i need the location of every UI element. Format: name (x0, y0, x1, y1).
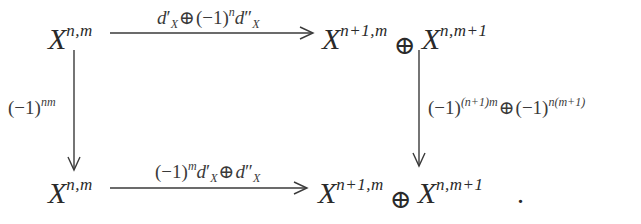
node-superscript: n,m (66, 21, 93, 40)
label-exponent: m (188, 159, 197, 173)
label-sign: (−1) (155, 161, 188, 182)
label-d: d (157, 7, 167, 28)
direct-sum-icon: ⊕ (179, 7, 195, 28)
label-d: d (235, 161, 245, 182)
label-exponent: nm (41, 95, 56, 109)
label-prime: ″ (245, 161, 253, 182)
direct-sum-icon: ⊕ (394, 31, 416, 60)
node-superscript: n,m (66, 175, 93, 194)
node-base: X (318, 176, 336, 209)
node-superscript: n+1,m (336, 175, 384, 194)
label-sign: (−1) (516, 97, 549, 118)
node-base: X (48, 176, 66, 209)
direct-sum-icon: ⊕ (219, 161, 235, 182)
label-subscript: X (210, 171, 217, 185)
label-subscript: X (252, 17, 259, 31)
label-sign: (−1) (196, 7, 229, 28)
trailing-period: . (517, 180, 524, 208)
label-subscript: X (171, 17, 178, 31)
node-top-right: Xn+1,m⊕Xn,m+1 (322, 22, 487, 54)
direct-sum-icon: ⊕ (499, 97, 515, 118)
label-sign: (−1) (8, 97, 41, 118)
node-superscript: n,m+1 (440, 21, 488, 40)
node-base: X (422, 22, 440, 55)
node-bottom-right: Xn+1,m⊕Xn,m+1 (318, 176, 483, 208)
node-base: X (322, 22, 340, 55)
top-arrow-label: d′X⊕(−1)nd″X (157, 6, 260, 30)
left-arrow-label: (−1)nm (8, 96, 56, 117)
node-superscript: n+1,m (340, 21, 388, 40)
label-exponent: n(m+1) (548, 95, 585, 109)
node-superscript: n,m+1 (436, 175, 484, 194)
node-bottom-left: Xn,m (48, 176, 93, 208)
right-arrow-label: (−1)(n+1)m⊕(−1)n(m+1) (428, 96, 585, 117)
label-d: d (197, 161, 207, 182)
label-sign: (−1) (428, 97, 461, 118)
node-base: X (48, 22, 66, 55)
node-top-left: Xn,m (48, 22, 93, 54)
label-d: d (235, 7, 245, 28)
label-exponent: (n+1)m (461, 95, 498, 109)
label-subscript: X (253, 171, 260, 185)
direct-sum-icon: ⊕ (390, 185, 412, 214)
bottom-arrow-label: (−1)md′X⊕d″X (155, 160, 260, 184)
node-base: X (418, 176, 436, 209)
